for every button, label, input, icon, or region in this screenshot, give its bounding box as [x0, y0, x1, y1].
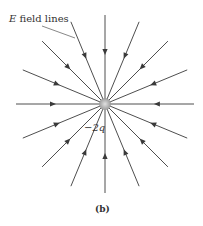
- field-lines-diagram: [0, 0, 203, 226]
- negative-charge: [99, 98, 111, 110]
- field-line: [42, 104, 105, 167]
- arrow-icon: [102, 153, 107, 159]
- charge-label: −2q: [84, 122, 105, 133]
- field-line: [105, 41, 168, 104]
- arrow-icon: [50, 101, 56, 106]
- figure-caption: (b): [95, 204, 110, 214]
- field-lines-label: E field lines: [9, 13, 69, 24]
- arrow-icon: [102, 49, 107, 55]
- label-leader-line: [42, 26, 75, 38]
- field-line: [105, 104, 168, 167]
- field-line: [42, 41, 105, 104]
- arrow-icon: [154, 101, 160, 106]
